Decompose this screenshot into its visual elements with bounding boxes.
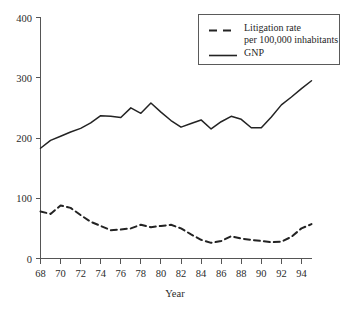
series-line-litigation-rate bbox=[41, 205, 312, 242]
y-axis-ticks bbox=[36, 18, 41, 259]
x-axis-title: Year bbox=[165, 288, 184, 299]
legend-label-litigation-rate: Litigation rate per 100,000 inhabitants bbox=[244, 22, 338, 45]
x-axis-tick-label: 82 bbox=[176, 268, 187, 279]
x-axis-tick-label: 92 bbox=[276, 268, 287, 279]
x-axis-tick-label: 72 bbox=[75, 268, 86, 279]
x-axis-tick-label: 90 bbox=[256, 268, 267, 279]
chart-series-group bbox=[41, 81, 312, 243]
x-axis-tick-label: 68 bbox=[35, 268, 46, 279]
y-axis-tick-label: 300 bbox=[2, 72, 32, 83]
legend-swatch-dashed-icon bbox=[208, 25, 238, 36]
chart-legend: Litigation rate per 100,000 inhabitants … bbox=[198, 14, 340, 65]
x-axis-tick-label: 76 bbox=[116, 268, 127, 279]
legend-item-gnp: GNP bbox=[208, 47, 264, 61]
x-axis-ticks bbox=[41, 259, 302, 264]
x-axis-tick-label: 84 bbox=[196, 268, 207, 279]
chart-figure: 0100200300400 68707274767880828486889092… bbox=[0, 0, 351, 313]
y-axis-tick-label: 0 bbox=[2, 253, 32, 264]
x-axis-tick-label: 94 bbox=[296, 268, 307, 279]
y-axis-tick-label: 200 bbox=[2, 133, 32, 144]
series-line-gnp bbox=[41, 81, 312, 148]
x-axis-tick-label: 86 bbox=[216, 268, 227, 279]
x-axis-tick-label: 80 bbox=[156, 268, 167, 279]
y-axis-tick-label: 100 bbox=[2, 193, 32, 204]
x-axis-tick-label: 88 bbox=[236, 268, 247, 279]
legend-swatch-solid-icon bbox=[208, 50, 238, 61]
legend-label-line2: per 100,000 inhabitants bbox=[244, 34, 338, 45]
x-axis-tick-label: 78 bbox=[136, 268, 147, 279]
y-axis-tick-label: 400 bbox=[2, 12, 32, 23]
x-axis-tick-label: 70 bbox=[55, 268, 66, 279]
legend-label-gnp: GNP bbox=[244, 47, 264, 59]
legend-item-litigation-rate: Litigation rate per 100,000 inhabitants bbox=[208, 22, 338, 45]
x-axis-tick-label: 74 bbox=[95, 268, 106, 279]
legend-label-line1: Litigation rate bbox=[244, 22, 301, 33]
